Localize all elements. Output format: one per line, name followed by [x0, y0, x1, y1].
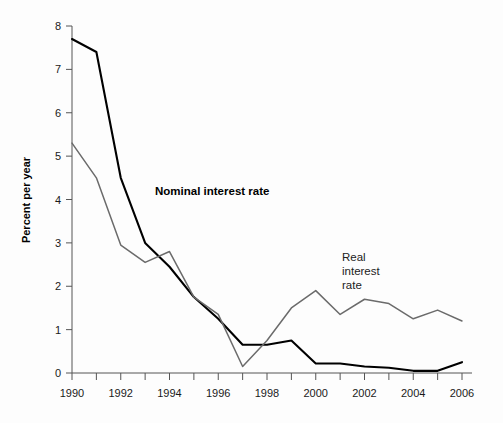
- y-axis: 012345678: [55, 20, 72, 379]
- y-tick-label: 1: [55, 324, 61, 336]
- y-tick-label: 4: [55, 194, 61, 206]
- series-label-real-line3: rate: [342, 278, 380, 292]
- x-tick-label: 1996: [206, 387, 230, 399]
- series-label-real-line2: interest: [342, 264, 380, 278]
- y-tick-label: 7: [55, 63, 61, 75]
- y-tick-label: 3: [55, 237, 61, 249]
- x-tick-label: 2006: [450, 387, 474, 399]
- series-label-real: Real interest rate: [342, 250, 380, 292]
- x-tick-label: 2000: [304, 387, 328, 399]
- x-axis: 199019921994199619982000200220042006: [60, 373, 474, 399]
- x-tick-label: 1992: [109, 387, 133, 399]
- series-line-real: [72, 143, 462, 366]
- line-chart-canvas: 012345678 199019921994199619982000200220…: [0, 0, 503, 423]
- y-tick-label: 8: [55, 20, 61, 32]
- x-tick-label: 1998: [255, 387, 279, 399]
- y-tick-label: 0: [55, 367, 61, 379]
- series-label-nominal: Nominal interest rate: [155, 185, 269, 197]
- x-tick-label: 2002: [352, 387, 376, 399]
- y-tick-label: 5: [55, 150, 61, 162]
- y-axis-title: Percent per year: [20, 156, 32, 243]
- series-group: [72, 39, 462, 371]
- y-tick-label: 6: [55, 107, 61, 119]
- y-tick-label: 2: [55, 280, 61, 292]
- x-tick-label: 2004: [401, 387, 425, 399]
- x-tick-label: 1994: [157, 387, 181, 399]
- x-tick-label: 1990: [60, 387, 84, 399]
- series-line-nominal: [72, 39, 462, 371]
- series-label-real-line1: Real: [342, 250, 380, 264]
- chart-figure: 012345678 199019921994199619982000200220…: [0, 0, 503, 423]
